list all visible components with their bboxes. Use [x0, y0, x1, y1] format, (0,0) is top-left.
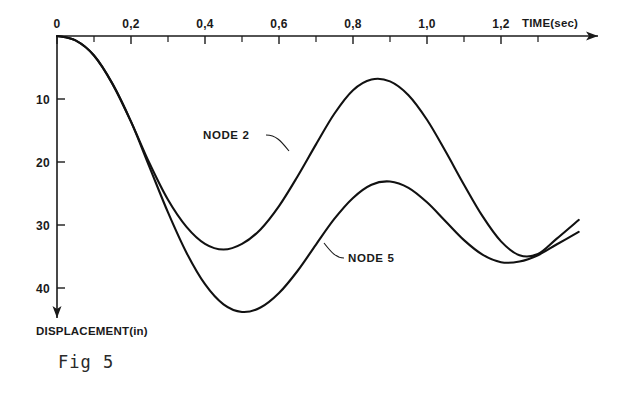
x-tick-label-1: 0,2 — [122, 17, 140, 31]
x-tick-label-3: 0,6 — [270, 17, 288, 31]
y-tick-label-10: 10 — [36, 93, 50, 107]
x-axis — [57, 32, 598, 41]
x-tick-label-2: 0,4 — [196, 17, 214, 31]
y-axis-ticks — [57, 99, 65, 288]
series-line-node-5 — [57, 36, 579, 312]
series-line-node-2 — [57, 36, 579, 256]
y-axis-title: DISPLACEMENT(in) — [36, 325, 148, 337]
x-axis-title: TIME(sec) — [522, 17, 578, 29]
y-tick-label-30: 30 — [36, 219, 50, 233]
series-annotation-node-2: NODE 2 — [203, 129, 289, 151]
x-tick-label-5: 1,0 — [418, 17, 436, 31]
figure-5-chart: 0 0,2 0,4 0,6 0,8 1,0 1,2 TIME(sec) 10 2… — [0, 0, 625, 396]
y-tick-label-20: 20 — [36, 156, 50, 170]
series-label-node-5: NODE 5 — [348, 252, 394, 264]
series-leader-node-2 — [266, 135, 289, 151]
x-axis-tick-labels: 0 0,2 0,4 0,6 0,8 1,0 1,2 — [54, 17, 510, 31]
y-axis — [53, 36, 62, 318]
series-leader-node-5 — [324, 243, 344, 258]
x-axis-ticks — [57, 36, 538, 44]
x-tick-label-0: 0 — [54, 17, 61, 31]
y-axis-tick-labels: 10 20 30 40 — [36, 93, 50, 296]
y-tick-label-40: 40 — [36, 282, 50, 296]
series-annotation-node-5: NODE 5 — [324, 243, 394, 264]
x-tick-label-4: 0,8 — [344, 17, 362, 31]
figure-caption: Fig 5 — [58, 352, 114, 372]
x-tick-label-6: 1,2 — [492, 17, 510, 31]
series-label-node-2: NODE 2 — [203, 129, 249, 141]
